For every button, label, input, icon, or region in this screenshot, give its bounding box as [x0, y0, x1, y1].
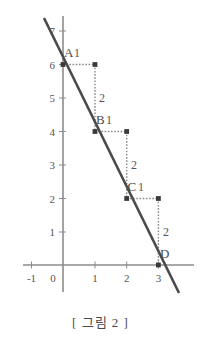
- y-tick-label-3: 3: [50, 159, 56, 171]
- corner-marker-3-2: [156, 196, 161, 201]
- x-tick-label-3: 3: [156, 272, 162, 284]
- x-tick-label-1: 1: [92, 272, 98, 284]
- point-labels: A B C D: [64, 45, 169, 261]
- point-label-b: B: [96, 112, 105, 127]
- point-marker-a: [61, 62, 66, 67]
- coordinate-plane-chart: 7 6 5 4 3 2 1 -1 0 1 2 3: [0, 0, 201, 300]
- figure-caption: [ 그림 2 ]: [0, 312, 201, 331]
- corner-marker-1-6: [93, 62, 98, 67]
- corner-marker-2-4: [124, 129, 129, 134]
- run-label-a-b: 1: [74, 46, 80, 60]
- point-label-a: A: [64, 45, 74, 60]
- y-tick-label-1: 1: [50, 226, 56, 238]
- y-axis-tick-labels: 7 6 5 4 3 2 1: [50, 25, 56, 238]
- y-tick-label-4: 4: [50, 126, 56, 138]
- run-label-c-d: 1: [138, 180, 144, 194]
- x-tick-label-2: 2: [124, 272, 130, 284]
- x-tick-label-minus1: -1: [27, 272, 36, 284]
- figure-container: 7 6 5 4 3 2 1 -1 0 1 2 3: [0, 0, 201, 348]
- y-tick-label-2: 2: [50, 193, 56, 205]
- rise-label-a-b: 2: [99, 91, 105, 105]
- line-point-markers: [61, 62, 161, 267]
- point-marker-b: [93, 129, 98, 134]
- x-axis-tick-labels: -1 0 1 2 3: [27, 272, 162, 284]
- point-marker-d: [156, 263, 161, 268]
- rise-label-c-d: 2: [163, 225, 169, 239]
- x-tick-label-0: 0: [50, 272, 56, 284]
- point-marker-c: [124, 196, 129, 201]
- y-tick-label-6: 6: [50, 59, 56, 71]
- y-tick-label-5: 5: [50, 92, 56, 104]
- point-label-d: D: [160, 246, 169, 261]
- segment-annotations: 1 2 1 2 1 2: [74, 46, 169, 239]
- run-label-b-c: 1: [106, 113, 112, 127]
- point-label-c: C: [128, 179, 137, 194]
- rise-label-b-c: 2: [131, 158, 137, 172]
